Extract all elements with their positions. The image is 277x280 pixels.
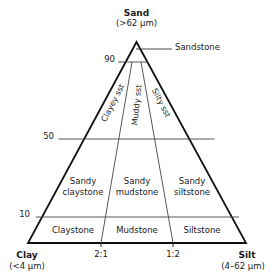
- tick-label-ratio-2-1: 2:1: [94, 250, 108, 260]
- apex-label-sand: Sand: [124, 8, 149, 18]
- vertex-sublabel-silt: (4–62 µm): [221, 262, 265, 272]
- field-label-sandy-siltstone-line1: Sandy: [179, 177, 205, 187]
- tick-label-90: 90: [99, 55, 115, 65]
- apex-sublabel-sand: (>62 µm): [116, 19, 157, 29]
- triangle-outline: [28, 42, 246, 243]
- field-label-sandy-claystone-line2: claystone: [63, 188, 104, 198]
- tick-label-50: 50: [38, 132, 54, 142]
- field-label-sandy-siltstone-line2: siltstone: [174, 188, 210, 198]
- vertex-sublabel-clay: (<4 µm): [9, 262, 45, 272]
- field-label-sandy-mudstone-line2: mudstone: [116, 188, 159, 198]
- field-label-sandy-claystone-line1: Sandy: [70, 177, 96, 187]
- vertex-label-silt: Silt: [239, 250, 256, 260]
- tick-label-10: 10: [14, 210, 30, 220]
- field-label-sandstone: Sandstone: [175, 43, 220, 53]
- field-label-sandy-mudstone-line1: Sandy: [124, 177, 150, 187]
- field-label-claystone: Claystone: [52, 226, 94, 236]
- ternary-diagram: Sand (>62 µm) Sandstone 90 50 10 Clayey …: [0, 0, 277, 280]
- field-label-mudstone: Mudstone: [116, 226, 158, 236]
- vertex-label-clay: Clay: [16, 250, 37, 260]
- field-label-siltstone: Siltstone: [183, 226, 220, 236]
- tick-label-ratio-1-2: 1:2: [166, 250, 180, 260]
